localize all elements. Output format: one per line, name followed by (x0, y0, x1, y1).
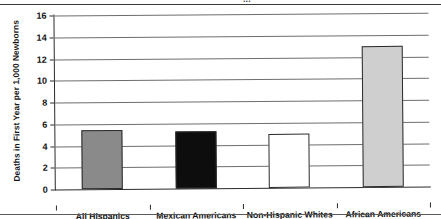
figure-container: Deaths in First Year per 1,000 Newborns … (0, 0, 441, 214)
x-axis-tick (149, 205, 150, 210)
x-axis-tick (430, 203, 431, 208)
x-axis-tick (243, 204, 244, 209)
y-axis-tick (50, 59, 54, 60)
y-axis-tick-label: 14 (23, 33, 47, 42)
gridline (54, 13, 428, 17)
y-axis-tick (50, 103, 54, 104)
y-axis-tick (50, 124, 54, 125)
y-axis-tick-label: 2 (24, 164, 48, 173)
bar-non-hispanic-whites (269, 133, 310, 188)
y-axis-tick (51, 190, 55, 191)
y-axis-tick (50, 37, 54, 38)
y-axis-tick-label: 4 (23, 142, 47, 151)
bar-mexican-americans (175, 132, 216, 189)
y-axis-tick-label: 16 (22, 12, 46, 21)
y-axis-tick (50, 146, 54, 147)
y-axis-tick-label: 8 (23, 99, 47, 108)
x-axis-tick (56, 206, 57, 211)
y-axis-tick (50, 81, 54, 82)
y-axis-tick (51, 168, 55, 169)
page-rule-bottom (0, 214, 441, 215)
y-axis-tick-label: 0 (24, 186, 48, 195)
bar-african-americans (361, 45, 403, 187)
plot-area: 0246810121416All HispanicsMexican Americ… (54, 13, 429, 190)
y-axis-tick-label: 10 (23, 77, 47, 86)
x-axis-tick (336, 203, 337, 208)
y-axis-tick (49, 16, 53, 17)
y-axis-title: Deaths in First Year per 1,000 Newborns (10, 11, 21, 191)
y-axis-tick-label: 6 (23, 120, 47, 129)
gridline (55, 34, 429, 38)
y-axis-tick-label: 12 (23, 55, 47, 64)
bar-all-hispanics (82, 130, 123, 189)
